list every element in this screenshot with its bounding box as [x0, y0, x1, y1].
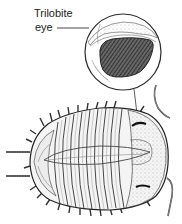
- trilobite-diagram: Trilobite eye: [0, 0, 182, 224]
- magnified-eye-callout: [85, 14, 161, 90]
- trilobite-body: [6, 85, 172, 216]
- label-eye: eye: [35, 21, 53, 33]
- trilobite-illustration: [0, 0, 182, 224]
- tail-appendages: [6, 152, 30, 176]
- label-trilobite: Trilobite: [34, 7, 73, 19]
